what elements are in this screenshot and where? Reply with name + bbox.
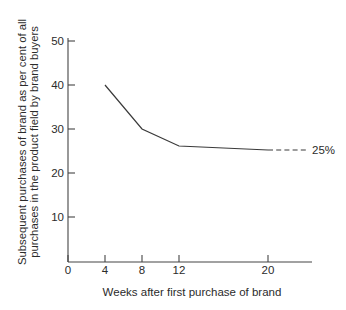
y-axis-title-line-2: purchases in the product field by brand … [28,26,40,258]
x-tick-label-4: 4 [102,264,109,276]
x-tick-label-20: 20 [262,264,275,276]
x-tick-label-8: 8 [139,264,145,276]
x-tick-label-12: 12 [173,264,186,276]
y-axis-title: Subsequent purchases of brand as per cen… [16,19,40,265]
y-tick-label-10: 10 [51,211,64,223]
y-tick-label-40: 40 [51,79,64,91]
x-tick-label-0: 0 [65,264,71,276]
y-tick-label-20: 20 [51,167,64,179]
y-axis-title-line-1: Subsequent purchases of brand as per cen… [16,19,28,265]
line-chart: 50 40 30 20 10 0 4 8 12 20 25% W [0,0,346,310]
x-axis-ticks [68,255,268,262]
plateau-annotation-label: 25% [312,144,335,156]
data-series-line [105,85,268,150]
x-axis-tick-labels: 0 4 8 12 20 [65,264,275,276]
y-axis-ticks [68,41,75,217]
x-axis-title: Weeks after first purchase of brand [103,286,282,298]
y-tick-label-30: 30 [51,123,64,135]
y-tick-label-50: 50 [51,35,64,47]
chart-figure: 50 40 30 20 10 0 4 8 12 20 25% W [0,0,346,310]
y-axis-tick-labels: 50 40 30 20 10 [51,35,64,223]
